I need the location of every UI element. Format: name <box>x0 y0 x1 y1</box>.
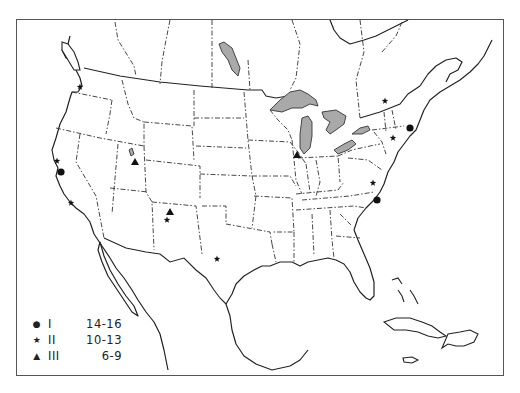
hispaniola <box>442 330 478 348</box>
great-salt-lake <box>129 148 134 156</box>
star-marker <box>370 180 376 186</box>
lake-winnipeg <box>219 42 240 76</box>
legend: ● I 14-16 ★ II 10-13 ▲ III 6-9 <box>30 316 122 364</box>
circle-marker <box>57 168 64 175</box>
cuba <box>384 318 446 338</box>
star-marker <box>54 158 60 164</box>
star-marker <box>382 98 388 104</box>
us-mexico-border <box>104 238 226 304</box>
triangle-icon: ▲ <box>30 351 44 361</box>
legend-class-label: II <box>48 333 70 347</box>
lake-ontario <box>352 126 370 134</box>
legend-class-label: III <box>48 349 70 363</box>
circle-marker <box>373 196 380 203</box>
gulf-of-st-lawrence <box>420 58 462 86</box>
lake-erie <box>334 140 356 154</box>
canada-border-east <box>360 86 420 118</box>
gulf-coastline <box>226 230 374 304</box>
us-canada-border <box>84 68 288 98</box>
triangle-marker <box>166 208 174 215</box>
legend-range-label: 6-9 <box>70 349 122 363</box>
legend-item-class-ii: ★ II 10-13 <box>30 332 122 348</box>
legend-class-label: I <box>48 317 70 331</box>
lake-michigan <box>300 116 312 154</box>
lake-huron <box>322 110 346 134</box>
circle-marker <box>406 124 413 131</box>
star-marker <box>164 217 170 223</box>
hudson-bay-coastline <box>330 20 408 44</box>
jamaica <box>403 357 418 363</box>
circle-icon: ● <box>30 319 44 329</box>
bahamas <box>392 278 418 304</box>
legend-range-label: 14-16 <box>70 317 122 331</box>
star-marker <box>214 256 220 262</box>
legend-range-label: 10-13 <box>70 333 122 347</box>
legend-item-class-iii: ▲ III 6-9 <box>30 348 122 364</box>
star-marker <box>390 135 396 141</box>
triangle-marker <box>293 151 301 158</box>
star-icon: ★ <box>30 335 44 345</box>
lake-superior <box>270 90 318 112</box>
mexico-gulf-coastline <box>226 304 308 370</box>
legend-item-class-i: ● I 14-16 <box>30 316 122 332</box>
triangle-marker <box>131 158 139 165</box>
baja-california <box>98 242 138 316</box>
